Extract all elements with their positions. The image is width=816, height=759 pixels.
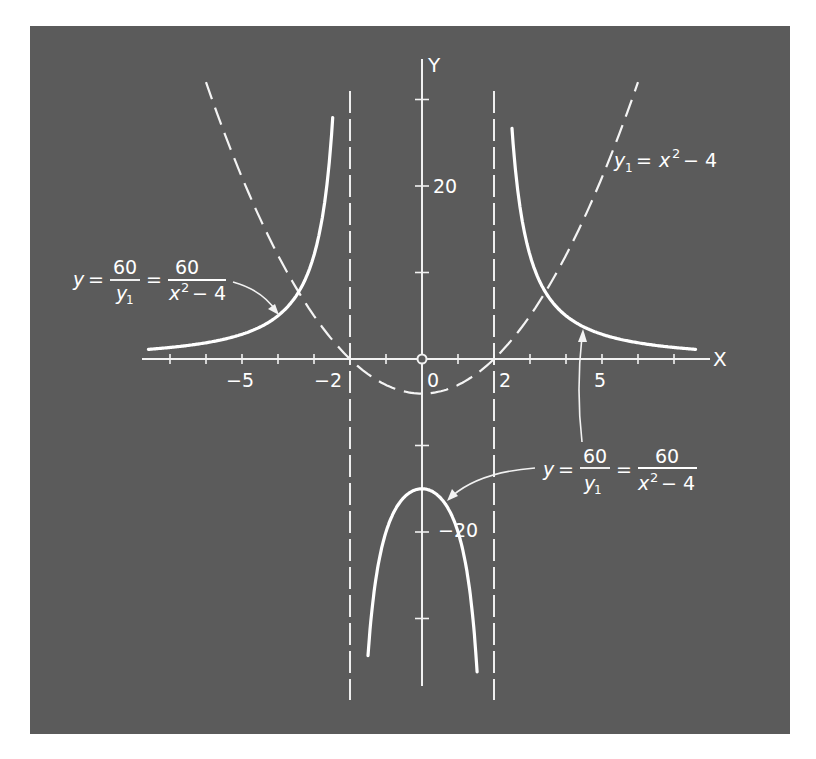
svg-text:1: 1 <box>594 483 602 497</box>
svg-text:1: 1 <box>625 161 633 175</box>
x-axis-label: X <box>713 347 727 371</box>
svg-text:60: 60 <box>583 445 607 467</box>
svg-text:y: y <box>542 458 555 480</box>
svg-text:− 4: − 4 <box>683 149 717 171</box>
svg-text:1: 1 <box>126 293 134 307</box>
svg-text:=: = <box>616 458 632 480</box>
x-tick-label-0: 0 <box>427 369 439 391</box>
svg-text:x: x <box>658 149 671 171</box>
svg-text:=: = <box>146 268 162 290</box>
chart-panel <box>30 26 790 734</box>
y-tick-label-neg20: −20 <box>438 519 478 541</box>
svg-text:x: x <box>168 282 181 304</box>
svg-text:2: 2 <box>650 470 658 485</box>
x-tick-label-5: 5 <box>594 369 606 391</box>
svg-text:2: 2 <box>672 146 680 161</box>
svg-text:=: = <box>88 268 104 290</box>
y-axis-label: Y <box>427 53 441 77</box>
svg-text:=: = <box>558 458 574 480</box>
x-tick-label-neg5: −5 <box>226 369 254 391</box>
y-tick-label-20: 20 <box>433 175 457 197</box>
x-tick-label-2: 2 <box>499 369 511 391</box>
svg-text:y: y <box>72 268 85 290</box>
svg-text:− 4: − 4 <box>661 472 695 494</box>
svg-text:60: 60 <box>113 256 137 278</box>
svg-text:60: 60 <box>655 445 679 467</box>
svg-text:=: = <box>636 149 652 171</box>
origin-marker <box>418 355 427 364</box>
x-tick-label-neg2: −2 <box>314 369 342 391</box>
svg-text:x: x <box>637 472 650 494</box>
svg-text:2: 2 <box>181 280 189 295</box>
svg-text:60: 60 <box>175 256 199 278</box>
chart-figure: Y X −5 −2 0 2 5 20 −20 y = 60 y 1 = 60 x… <box>0 0 816 759</box>
svg-text:− 4: − 4 <box>192 282 226 304</box>
